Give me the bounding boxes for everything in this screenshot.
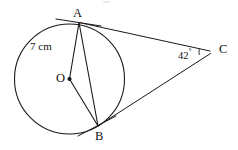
radius-measure-label: 7 cm (30, 41, 52, 52)
degree-symbol: ° (189, 47, 192, 56)
radius-segment-oa (70, 23, 80, 80)
vertex-label-c: C (219, 43, 227, 56)
center-point-dot (67, 77, 71, 81)
geometry-canvas (0, 0, 238, 150)
angle-measure-label: 42° (178, 48, 192, 61)
angle-value-text: 42 (178, 50, 189, 61)
geometry-figure: A B C O 7 cm 42° (0, 0, 238, 150)
scan-artifact-mark (103, 1, 110, 3)
tangent-segment-bc (98, 54, 211, 127)
vertex-label-a: A (73, 7, 82, 20)
vertex-label-b: B (95, 130, 103, 143)
center-label-o: O (56, 72, 65, 85)
